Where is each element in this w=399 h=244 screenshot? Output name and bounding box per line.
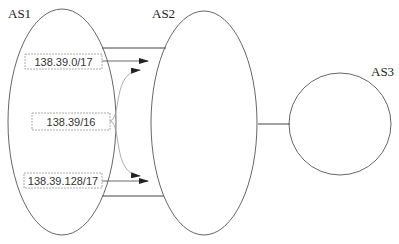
as2-label: AS2 <box>152 6 175 21</box>
prefix-label: 138.39/16 <box>47 116 96 128</box>
as1-label: AS1 <box>8 6 31 21</box>
as3-circle <box>289 73 391 175</box>
as3-label: AS3 <box>371 64 394 79</box>
prefix-box-138-39-128-17: 138.39.128/17 <box>24 173 102 188</box>
prefix-label: 138.39.128/17 <box>28 175 98 187</box>
as2-ellipse <box>151 11 257 235</box>
prefix-box-138-39-16: 138.39/16 <box>32 113 110 130</box>
prefix-label: 138.39.0/17 <box>34 56 92 68</box>
as-diagram: AS1 AS2 AS3 138.39.0/17 138.39/16 138.39… <box>0 0 399 244</box>
prefix-box-138-39-0-17: 138.39.0/17 <box>25 54 102 69</box>
